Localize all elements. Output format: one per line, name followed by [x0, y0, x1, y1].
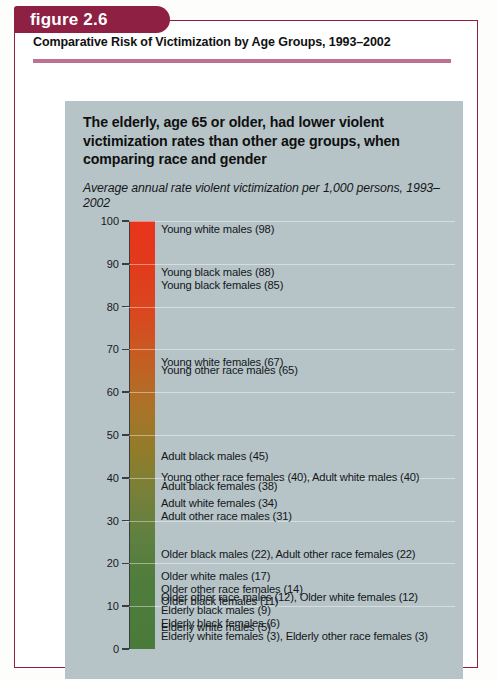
data-annotation-label: Older black males (22), Adult other race… [161, 549, 415, 561]
data-annotation-label: Young black females (85) [161, 280, 283, 292]
gridline [125, 392, 455, 393]
y-tick-label: 70 [89, 344, 119, 354]
data-annotation-label: Young other race males (65) [161, 365, 298, 377]
y-tick-label: 60 [89, 387, 119, 397]
y-tick-mark [122, 306, 129, 308]
data-annotation-label: Adult other race males (31) [161, 511, 292, 523]
figure-card: Comparative Risk of Victimization by Age… [14, 20, 478, 668]
gridline [125, 307, 455, 308]
y-tick-mark [122, 391, 129, 393]
y-tick-mark [122, 349, 129, 351]
y-tick-label: 80 [89, 302, 119, 312]
chart-panel: The elderly, age 65 or older, had lower … [65, 101, 463, 679]
gridline [125, 221, 455, 222]
chart-plot-area: 0102030405060708090100Young white males … [65, 101, 463, 679]
y-tick-label: 0 [89, 644, 119, 654]
data-annotation-label: Adult black males (45) [161, 451, 268, 463]
figure-title: Comparative Risk of Victimization by Age… [33, 35, 463, 49]
gridline [125, 563, 455, 564]
y-tick-label: 90 [89, 259, 119, 269]
figure-page: Comparative Risk of Victimization by Age… [0, 0, 497, 680]
y-tick-mark [122, 263, 129, 265]
figure-tab: figure 2.6 [14, 6, 170, 33]
y-tick-mark [122, 477, 129, 479]
y-tick-label: 30 [89, 516, 119, 526]
data-annotation-label: Young black males (88) [161, 267, 274, 279]
title-rule [33, 59, 451, 63]
y-tick-label: 50 [89, 430, 119, 440]
y-tick-mark [122, 648, 129, 650]
gridline [125, 349, 455, 350]
figure-tab-label: figure 2.6 [30, 9, 170, 31]
y-tick-label: 40 [89, 473, 119, 483]
data-annotation-label: Older white males (17) [161, 571, 270, 583]
y-tick-mark [122, 434, 129, 436]
data-annotation-label: Elderly white females (3), Elderly other… [161, 631, 428, 643]
y-tick-label: 10 [89, 601, 119, 611]
y-tick-mark [122, 220, 129, 222]
gridline [125, 264, 455, 265]
data-annotation-label: Adult white females (34) [161, 498, 277, 510]
y-tick-mark [122, 605, 129, 607]
data-annotation-label: Elderly black males (9) [161, 605, 271, 617]
gridline [125, 435, 455, 436]
y-tick-mark [122, 520, 129, 522]
y-tick-label: 20 [89, 558, 119, 568]
data-annotation-label: Young white males (98) [161, 224, 274, 236]
y-tick-label: 100 [89, 216, 119, 226]
data-annotation-label: Adult black females (38) [161, 481, 277, 493]
y-tick-mark [122, 563, 129, 565]
